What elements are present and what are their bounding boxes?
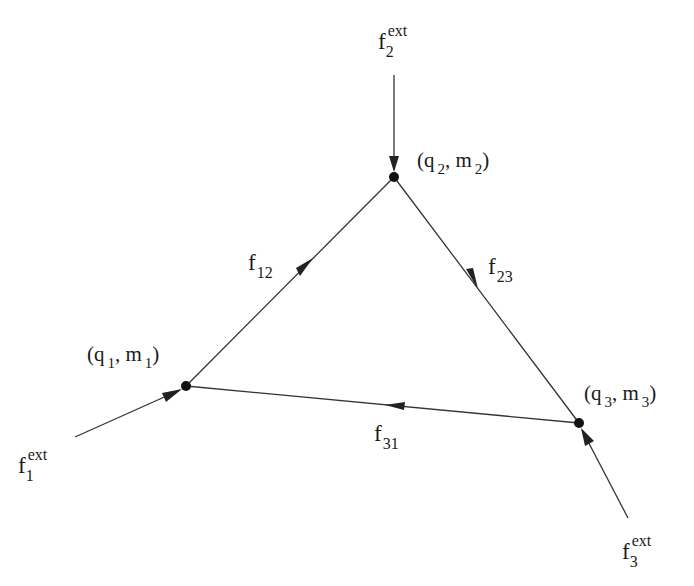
edge-f31-label: f31	[374, 422, 399, 445]
label-subscript: 1	[26, 467, 34, 484]
label-subscript: 1	[108, 355, 116, 371]
label-text: , m	[445, 148, 472, 172]
label-subscript: 23	[497, 268, 513, 285]
edge-f1-ext	[75, 389, 182, 437]
label-subscript: 12	[257, 264, 273, 281]
label-subscript: 3	[642, 394, 650, 410]
f1-ext-label: f1ext	[18, 454, 47, 477]
edge-f23-label: f23	[488, 255, 513, 278]
network-diagram	[0, 0, 694, 586]
f3-ext-label: f3ext	[622, 540, 651, 563]
arrowhead-icon	[389, 156, 399, 172]
f2-ext-label: f2ext	[378, 30, 407, 53]
label-text: )	[152, 342, 159, 366]
arrowhead-icon	[385, 402, 405, 410]
edge-f3-ext	[581, 428, 628, 518]
label-text: f	[622, 539, 630, 564]
node-1-label: (q1, m1)	[87, 344, 159, 365]
label-text: , m	[115, 342, 142, 366]
label-text: (q	[584, 381, 602, 405]
label-text: f	[18, 453, 26, 478]
label-text: (q	[87, 342, 105, 366]
label-text: )	[649, 381, 656, 405]
label-subscript: 2	[475, 161, 483, 177]
arrowhead-icon	[466, 268, 478, 289]
edge-f23	[394, 177, 579, 423]
label-subscript: 3	[630, 553, 638, 570]
label-superscript: ext	[28, 446, 48, 463]
node-1	[181, 381, 191, 391]
edge-f12-label: f12	[248, 251, 273, 274]
label-superscript: ext	[388, 22, 408, 39]
node-3	[574, 418, 584, 428]
label-text: (q	[417, 148, 435, 172]
arrowhead-icon	[162, 389, 182, 402]
label-superscript: ext	[632, 532, 652, 549]
label-text: , m	[612, 381, 639, 405]
label-text: )	[482, 148, 489, 172]
label-subscript: 3	[605, 394, 613, 410]
arrowhead-icon	[581, 428, 594, 446]
label-text: f	[248, 250, 256, 275]
edge-f2-ext	[389, 75, 399, 172]
label-text: f	[378, 29, 386, 54]
node-2	[389, 172, 399, 182]
label-subscript: 2	[386, 43, 394, 60]
label-subscript: 31	[383, 435, 399, 452]
edge-f31	[186, 386, 579, 423]
node-3-label: (q3, m3)	[584, 383, 656, 404]
label-text: f	[488, 254, 496, 279]
edge-f12	[186, 177, 394, 386]
label-text: f	[374, 421, 382, 446]
node-2-label: (q2, m2)	[417, 150, 489, 171]
label-subscript: 1	[145, 355, 153, 371]
label-subscript: 2	[438, 161, 446, 177]
